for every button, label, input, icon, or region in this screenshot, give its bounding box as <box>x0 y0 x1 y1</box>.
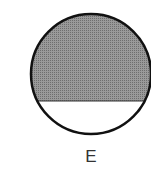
figure-label: E <box>0 147 151 167</box>
shaded-circle-diagram <box>0 0 151 171</box>
